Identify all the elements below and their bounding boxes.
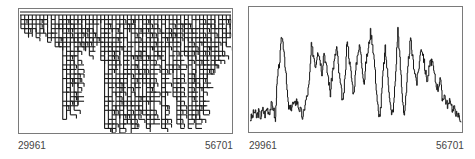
branching-staircase-plot xyxy=(19,9,232,133)
right-x-max-label: 56701 xyxy=(436,140,464,151)
left-x-min-label: 29961 xyxy=(18,140,46,151)
right-chart-panel: 29961 56701 xyxy=(240,0,475,159)
left-plot-frame xyxy=(18,8,233,134)
right-x-min-label: 29961 xyxy=(249,140,277,151)
right-plot-frame xyxy=(248,6,463,133)
line-profile-plot xyxy=(249,7,462,132)
left-x-max-label: 56701 xyxy=(205,140,233,151)
left-chart-panel: 29961 56701 xyxy=(0,0,240,159)
